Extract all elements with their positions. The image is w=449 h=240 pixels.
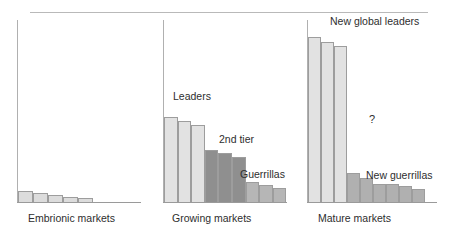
panel2-caption: Growing markets	[172, 212, 251, 224]
bar-mature-new-global-leaders-1	[308, 37, 321, 202]
panel3-label-new-guerrillas: New guerrillas	[366, 169, 433, 181]
bar-growing-guerrillas-1	[246, 182, 260, 202]
panel3-label-new-global-leaders: New global leaders	[330, 15, 419, 27]
bar-embrionic-fragmented-players-4	[63, 197, 78, 203]
bar-embrionic-fragmented-players-1	[18, 191, 33, 202]
bar-mature-new-guerrillas-4	[386, 184, 399, 202]
bar-growing-leaders-1	[164, 117, 178, 202]
bar-growing-leaders-2	[178, 121, 192, 202]
figure-canvas: Embrionic markets Leaders 2nd tier Guerr…	[0, 0, 449, 240]
bar-mature-new-guerrillas-5	[399, 186, 412, 202]
bar-mature-new-guerrillas-6	[412, 189, 425, 202]
panel2-label-leaders: Leaders	[173, 90, 211, 102]
panel1-bar-group	[17, 2, 141, 202]
panel1-x-axis	[17, 202, 141, 203]
bar-embrionic-fragmented-players-2	[33, 193, 48, 202]
bar-mature-new-global-leaders-3	[334, 46, 347, 202]
bar-embrionic-fragmented-players-3	[48, 195, 63, 202]
bar-mature-new-guerrillas-3	[373, 184, 386, 202]
bar-embrionic-fragmented-players-5	[78, 198, 93, 202]
bar-growing-guerrillas-3	[273, 188, 287, 202]
panel2-label-second-tier: 2nd tier	[219, 133, 254, 145]
panel3-caption: Mature markets	[318, 212, 391, 224]
panel3-label-question-mark: ?	[369, 113, 375, 125]
bar-growing-guerrillas-2	[259, 185, 273, 202]
bar-growing-2nd-tier-1	[205, 150, 219, 202]
bar-mature-new-global-leaders-2	[321, 42, 334, 202]
bar-mature-new-guerrillas-2	[360, 178, 373, 202]
panel2-label-guerrillas: Guerrillas	[240, 168, 285, 180]
panel1-caption: Embrionic markets	[28, 212, 115, 224]
bar-mature-new-guerrillas-1	[347, 173, 360, 202]
bar-growing-leaders-3	[191, 125, 205, 202]
panel3-x-axis	[307, 202, 437, 203]
panel2-x-axis	[163, 202, 287, 203]
bar-growing-2nd-tier-2	[218, 153, 232, 202]
